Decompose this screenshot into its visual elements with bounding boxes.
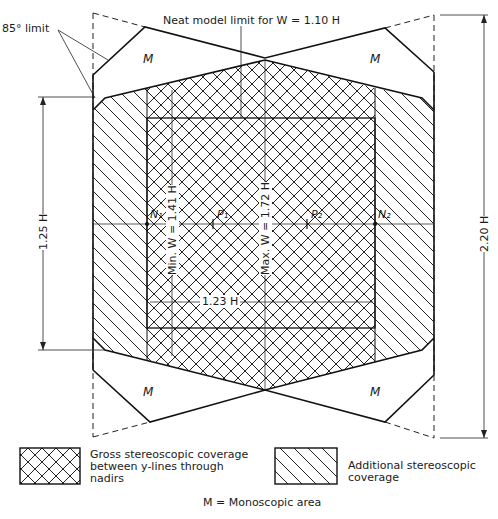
legend-additional-text: Additional stereoscopic coverage <box>348 460 476 484</box>
nadir-1-label: N₁ <box>150 208 163 221</box>
mono-bottom-left: M <box>143 385 153 399</box>
right-height-label: 2.20 H <box>478 216 491 252</box>
legend-gross-text: Gross stereoscopic coverage between y-li… <box>90 449 248 485</box>
legend-mono-key: M = Monoscopic area <box>203 496 321 509</box>
stereo-coverage-diagram <box>0 0 498 519</box>
angle-limit-label: 85° limit <box>2 22 49 35</box>
base-dimension-label: 1.23 H <box>200 295 240 308</box>
legend-gross-swatch <box>20 448 80 484</box>
mono-top-right: M <box>370 52 380 66</box>
mono-top-left: M <box>143 52 153 66</box>
principal-2-label: P₂ <box>311 208 322 221</box>
angle-limit-leaders <box>58 30 108 98</box>
max-width-label: Max. W = 1.72 H <box>259 182 272 275</box>
left-height-label: 1.25 H <box>37 214 50 250</box>
neat-model-label: Neat model limit for W = 1.10 H <box>163 14 340 27</box>
mono-bottom-right: M <box>370 385 380 399</box>
min-width-label: Min. W = 1.41 H <box>166 185 179 275</box>
nadir-2-label: N₂ <box>378 208 391 221</box>
legend-additional-swatch <box>275 448 337 484</box>
principal-1-label: P₁ <box>217 208 228 221</box>
